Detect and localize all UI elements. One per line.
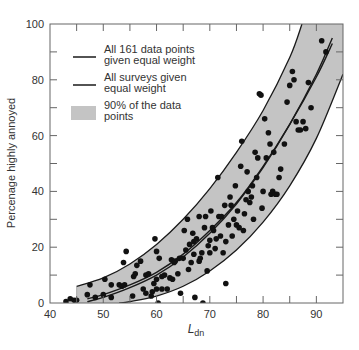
data-point [233,183,239,189]
legend-label-line2: points [104,110,134,122]
data-point [242,211,248,217]
data-point [244,169,250,175]
data-point [222,203,228,209]
data-point [197,256,203,262]
data-point [255,155,261,161]
data-point [203,214,209,220]
data-point [180,256,186,262]
data-point [122,282,128,288]
data-point [130,293,136,299]
data-point [196,214,202,220]
data-point [199,250,205,256]
data-point [207,250,213,256]
data-point [274,191,280,197]
data-point [308,105,314,111]
data-point [208,208,214,214]
data-point [235,208,241,214]
data-point [170,276,176,282]
data-point [267,141,273,147]
data-point [291,77,297,83]
legend-band-swatch [71,106,96,120]
data-point [298,127,304,133]
data-point [241,228,247,234]
x-axis-label-main: L [188,322,195,336]
data-point [215,175,221,181]
data-point [287,83,293,89]
data-point [84,292,90,298]
data-point [181,228,187,234]
data-point [192,295,198,301]
data-point [293,119,299,125]
data-point [154,249,160,255]
data-point [282,141,288,147]
data-point [300,119,306,125]
data-point [290,69,296,75]
data-point [207,237,213,243]
data-point [143,290,149,296]
data-point [226,222,232,228]
y-tick-label: 40 [32,185,44,197]
data-point [228,203,234,209]
data-point [204,268,210,274]
data-point [323,49,329,55]
data-point [263,155,269,161]
data-point [251,217,257,223]
data-point [87,282,93,288]
data-point [259,205,265,211]
data-point [205,243,211,249]
data-point [229,233,235,239]
data-point [271,150,277,156]
x-tick-label: 40 [44,308,56,320]
data-point [245,189,251,195]
data-point [190,230,196,236]
y-tick-label: 100 [26,18,44,30]
data-point [194,236,200,242]
x-tick-label: 80 [257,308,269,320]
data-point [219,214,225,220]
data-point [154,286,160,292]
data-point [162,272,168,278]
data-point [152,236,158,242]
data-point [223,239,229,245]
data-point [108,295,114,301]
data-point [218,233,224,239]
data-point [239,138,245,144]
data-point [250,183,256,189]
data-point [254,175,260,181]
y-tick-label: 0 [38,297,44,309]
data-point [146,271,152,277]
data-point [258,92,264,98]
data-point [134,263,140,269]
data-point [138,258,144,264]
data-point [306,80,312,86]
data-point [231,217,237,223]
data-point [303,126,309,132]
data-point [211,228,217,234]
data-point [284,99,290,105]
data-point [278,166,284,172]
data-point [212,246,218,252]
x-axis-label-sub: dn [194,328,204,338]
data-point [102,276,108,282]
legend-label-line2: equal weight [104,82,166,94]
data-point [92,295,98,301]
x-tick-label: 70 [204,308,216,320]
data-point [262,116,268,122]
data-point [175,271,181,277]
y-axis-label: Percenage highly annoyed [5,98,17,228]
y-tick-label: 80 [32,74,44,86]
data-point [191,251,197,257]
data-point [123,249,129,255]
data-point [319,38,325,44]
y-tick-label: 20 [32,241,44,253]
chart: 405060708090020406080100 All 161 data po… [0,0,359,350]
x-tick-label: 60 [150,308,162,320]
data-point [266,130,272,136]
data-point [227,194,233,200]
data-point [156,256,162,262]
data-point [247,200,253,206]
data-point [185,217,191,223]
data-point [249,194,255,200]
data-point [178,290,184,296]
data-point [252,150,258,156]
